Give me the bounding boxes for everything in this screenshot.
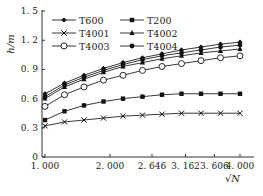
circle-marker bbox=[218, 45, 223, 50]
legend-item-t200: T200 bbox=[120, 15, 171, 26]
circle-marker bbox=[121, 62, 126, 67]
circle-open-marker bbox=[120, 72, 126, 78]
circle-open-marker bbox=[198, 58, 204, 64]
legend-item-t4002: T4002 bbox=[120, 28, 178, 39]
circle-open-marker bbox=[81, 84, 87, 90]
series-t4001 bbox=[42, 111, 242, 129]
square-marker bbox=[101, 99, 105, 103]
line-chart: 00. 30. 60. 91. 21. 51. 0002. 0002. 6463… bbox=[0, 0, 263, 196]
y-tick-label: 0. 3 bbox=[21, 123, 38, 133]
square-marker bbox=[121, 96, 125, 100]
legend-label: T4002 bbox=[147, 28, 178, 39]
circle-marker bbox=[62, 83, 67, 88]
circle-open-marker bbox=[42, 103, 48, 109]
x-tick-label: 4. 000 bbox=[226, 161, 255, 171]
legend: T600T200T4001T4002T4003T4004 bbox=[52, 15, 178, 52]
y-tick-label: 0. 9 bbox=[21, 64, 38, 74]
legend-label: T4004 bbox=[147, 41, 178, 52]
square-marker bbox=[82, 103, 86, 107]
circle-open-marker bbox=[101, 77, 107, 83]
y-tick-label: 0. 6 bbox=[21, 94, 38, 104]
x-tick-label: 1. 000 bbox=[31, 161, 60, 171]
legend-item-t600: T600 bbox=[52, 15, 103, 26]
square-marker bbox=[62, 109, 66, 113]
square-marker bbox=[238, 92, 242, 96]
y-tick-label: 1. 5 bbox=[21, 6, 38, 16]
legend-item-t4003: T4003 bbox=[52, 41, 110, 52]
circle-marker bbox=[101, 68, 106, 73]
circle-open-marker bbox=[159, 64, 165, 70]
legend-item-t4004: T4004 bbox=[120, 41, 178, 52]
series-group bbox=[42, 40, 243, 129]
x-axis-label: √N bbox=[225, 173, 241, 184]
circle-marker bbox=[238, 43, 243, 48]
circle-marker bbox=[179, 50, 184, 55]
y-tick-label: 1. 2 bbox=[21, 35, 38, 45]
square-marker bbox=[160, 93, 164, 97]
circle-marker bbox=[130, 44, 135, 49]
circle-marker bbox=[199, 48, 204, 53]
legend-label: T4001 bbox=[79, 28, 110, 39]
square-marker bbox=[199, 92, 203, 96]
x-tick-label: 2. 646 bbox=[138, 161, 167, 171]
x-tick-label: 3. 162 bbox=[171, 161, 200, 171]
x-tick-label: 3. 606 bbox=[200, 161, 229, 171]
circle-open-marker bbox=[61, 43, 67, 49]
square-marker bbox=[130, 18, 134, 22]
square-marker bbox=[43, 118, 47, 122]
legend-label: T600 bbox=[79, 15, 103, 26]
legend-item-t4001: T4001 bbox=[52, 28, 110, 39]
x-tick-label: 2. 000 bbox=[96, 161, 125, 171]
series-t200 bbox=[43, 92, 242, 123]
legend-label: T200 bbox=[147, 15, 171, 26]
square-marker bbox=[218, 92, 222, 96]
circle-open-marker bbox=[179, 61, 185, 67]
circle-marker bbox=[140, 57, 145, 62]
legend-label: T4003 bbox=[79, 41, 110, 52]
y-axis-label: h/m bbox=[5, 34, 16, 53]
circle-marker bbox=[43, 94, 48, 99]
circle-marker bbox=[82, 75, 87, 80]
circle-open-marker bbox=[140, 67, 146, 73]
diamond-marker bbox=[61, 17, 66, 22]
circle-open-marker bbox=[218, 55, 224, 61]
square-marker bbox=[140, 94, 144, 98]
circle-marker bbox=[160, 53, 165, 58]
triangle-marker bbox=[129, 30, 134, 35]
circle-open-marker bbox=[62, 92, 68, 98]
circle-open-marker bbox=[237, 53, 243, 59]
square-marker bbox=[179, 92, 183, 96]
